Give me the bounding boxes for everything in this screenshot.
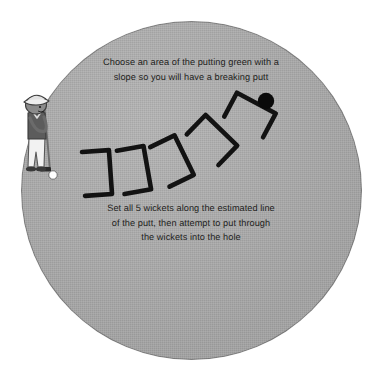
putting-green-diagram: Choose an area of the putting green with…	[0, 0, 379, 381]
golf-ball-icon	[49, 171, 57, 179]
golfer-figure	[0, 0, 379, 381]
golfer-eye	[39, 106, 41, 108]
golfer-torso	[28, 111, 46, 139]
golfer-shoe-right	[36, 167, 46, 172]
golfer-trousers	[28, 137, 45, 167]
golfer-shoe-left	[26, 167, 36, 172]
